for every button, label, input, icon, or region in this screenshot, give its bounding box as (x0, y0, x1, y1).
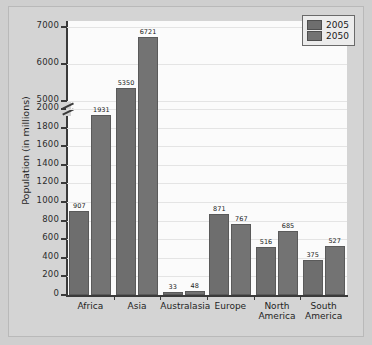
legend-swatch-2050 (307, 31, 322, 41)
x-category-north-america: NorthAmerica (254, 301, 301, 321)
bar-north-america-2050 (278, 231, 298, 295)
x-category-line: Australasia (160, 301, 207, 311)
x-category-asia: Asia (114, 301, 161, 311)
x-category-australasia: Australasia (160, 301, 207, 311)
bar-value-label: 767 (225, 215, 257, 223)
bar-asia-2050 (138, 37, 158, 295)
y-tick-label: 1400 (37, 158, 59, 168)
y-tick-label: 0 (53, 288, 59, 298)
bar-north-america-2005 (256, 247, 276, 295)
chart-legend: 2005 2050 (302, 15, 355, 46)
y-tick-mark (61, 220, 66, 222)
y-tick-label: 400 (42, 251, 59, 261)
y-tick-mark (61, 108, 66, 110)
legend-item-2050: 2050 (307, 31, 349, 41)
y-tick-mark (61, 257, 66, 259)
x-axis-separator-tick (207, 295, 208, 300)
bar-asia-2005 (116, 88, 136, 295)
x-axis-separator-tick (114, 295, 115, 300)
bar-value-label: 685 (272, 222, 304, 230)
y-tick-label: 6000 (37, 57, 59, 67)
chart-figure: Population (in millions) 020040060080010… (8, 6, 364, 337)
bar-south-america-2005 (303, 260, 323, 295)
legend-label-2005: 2005 (326, 20, 349, 30)
y-tick-label: 1000 (37, 195, 59, 205)
x-category-line: North (254, 301, 301, 311)
bar-south-america-2050 (325, 246, 345, 295)
bar-australasia-2050 (185, 291, 205, 295)
x-axis-separator-tick (160, 295, 161, 300)
y-tick-label: 1600 (37, 139, 59, 149)
y-tick-label: 7000 (37, 20, 59, 30)
y-tick-mark (61, 127, 66, 129)
y-tick-mark (61, 294, 66, 296)
y-tick-label: 800 (42, 214, 59, 224)
legend-item-2005: 2005 (307, 20, 349, 30)
x-axis-separator-tick (254, 295, 255, 300)
bar-value-label: 871 (203, 205, 235, 213)
bar-europe-2050 (231, 224, 251, 295)
x-category-africa: Africa (67, 301, 114, 311)
bar-value-label: 1931 (85, 106, 117, 114)
y-tick-mark (61, 26, 66, 28)
legend-label-2050: 2050 (326, 31, 349, 41)
y-tick-label: 1800 (37, 121, 59, 131)
y-tick-label: 200 (42, 269, 59, 279)
x-category-line: America (254, 311, 301, 321)
y-tick-label: 1200 (37, 176, 59, 186)
x-category-line: America (300, 311, 347, 321)
y-tick-mark (61, 145, 66, 147)
y-tick-mark (61, 164, 66, 166)
bar-value-label: 6721 (132, 28, 164, 36)
bar-australasia-2005 (163, 292, 183, 295)
y-tick-mark (61, 100, 66, 102)
x-axis-separator-tick (300, 295, 301, 300)
bar-value-label: 527 (319, 237, 351, 245)
grid-line (67, 101, 347, 102)
y-tick-mark (61, 182, 66, 184)
y-tick-label: 600 (42, 232, 59, 242)
bar-africa-2050 (91, 115, 111, 295)
x-category-europe: Europe (207, 301, 254, 311)
y-axis-line (66, 21, 68, 296)
x-category-line: South (300, 301, 347, 311)
x-category-line: Africa (67, 301, 114, 311)
y-tick-mark (61, 275, 66, 277)
y-tick-mark (61, 238, 66, 240)
legend-swatch-2005 (307, 20, 322, 30)
bar-value-label: 48 (179, 282, 211, 290)
x-category-line: Europe (207, 301, 254, 311)
bar-africa-2005 (69, 211, 89, 295)
y-axis-title: Population (in millions) (20, 61, 31, 241)
bar-europe-2005 (209, 214, 229, 295)
y-tick-label: 5000 (37, 94, 59, 104)
grid-line (67, 64, 347, 65)
x-category-line: Asia (114, 301, 161, 311)
y-tick-mark (61, 63, 66, 65)
x-category-south-america: SouthAmerica (300, 301, 347, 321)
